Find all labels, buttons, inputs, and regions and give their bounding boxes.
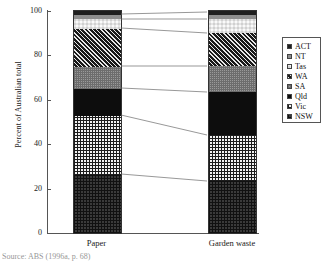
leader-line-vic (121, 174, 207, 181)
legend-label-sa: SA (295, 82, 305, 91)
y-tick-label-60: 60 (2, 96, 42, 104)
legend-item-sa[interactable]: SA (286, 81, 317, 91)
bar-paper[interactable] (73, 10, 122, 234)
bar-paper-segment-vic[interactable] (74, 116, 121, 175)
legend-swatch-nt-icon (287, 54, 292, 59)
legend-swatch-tas-icon (287, 64, 292, 69)
legend-label-wa: WA (295, 72, 307, 81)
y-tick-100 (47, 11, 51, 12)
bar-garden-waste-segment-qld[interactable] (209, 92, 256, 135)
y-tick-0 (47, 233, 51, 234)
legend: ACT NT Tas WA SA Qld Vic NSW (282, 37, 321, 123)
bar-garden-waste-segment-tas[interactable] (209, 19, 256, 33)
y-tick-label-40: 40 (2, 140, 42, 148)
bar-paper-segment-qld[interactable] (74, 89, 121, 116)
legend-item-vic[interactable]: Vic (286, 101, 317, 111)
legend-label-act: ACT (295, 42, 311, 51)
y-tick-label-0: 0 (2, 229, 42, 237)
legend-item-qld[interactable]: Qld (286, 91, 317, 101)
legend-item-act[interactable]: ACT (286, 41, 317, 51)
x-tick-label-garden-waste: Garden waste (197, 238, 267, 248)
bar-garden-waste-segment-wa[interactable] (209, 33, 256, 66)
legend-label-nt: NT (295, 52, 306, 61)
legend-swatch-vic-icon (287, 104, 292, 109)
bar-garden-waste-segment-nsw[interactable] (209, 181, 256, 233)
bar-paper-segment-sa[interactable] (74, 67, 121, 89)
bar-garden-waste[interactable] (208, 10, 257, 234)
bar-paper-segment-tas[interactable] (74, 19, 121, 29)
legend-label-vic: Vic (295, 102, 306, 111)
legend-label-tas: Tas (295, 62, 306, 71)
x-tick-label-paper: Paper (73, 238, 120, 248)
legend-label-nsw: NSW (295, 112, 313, 121)
legend-item-nt[interactable]: NT (286, 51, 317, 61)
bar-paper-segment-nsw[interactable] (74, 175, 121, 233)
y-tick-40 (47, 144, 51, 145)
legend-swatch-wa-icon (287, 74, 292, 79)
chart-root: Percent of Australian total 100 80 60 40… (0, 0, 323, 262)
segment-leader-lines (0, 0, 323, 262)
leader-line-tas (121, 28, 207, 33)
leader-line-sa (121, 88, 207, 92)
y-axis-line (47, 10, 48, 234)
legend-item-tas[interactable]: Tas (286, 61, 317, 71)
bar-paper-segment-wa[interactable] (74, 29, 121, 67)
y-tick-label-100: 100 (2, 7, 42, 15)
legend-swatch-sa-icon (287, 84, 292, 89)
y-tick-20 (47, 189, 51, 190)
legend-swatch-act-icon (287, 44, 292, 49)
legend-swatch-nsw-icon (287, 114, 292, 119)
y-tick-80 (47, 55, 51, 56)
y-tick-60 (47, 100, 51, 101)
y-tick-label-20: 20 (2, 185, 42, 193)
leader-line-qld (121, 115, 207, 135)
bar-garden-waste-segment-vic[interactable] (209, 135, 256, 181)
legend-item-wa[interactable]: WA (286, 71, 317, 81)
bar-garden-waste-segment-sa[interactable] (209, 66, 256, 92)
leader-line-act (121, 12, 207, 14)
legend-item-nsw[interactable]: NSW (286, 111, 317, 121)
y-tick-label-80: 80 (2, 51, 42, 59)
legend-swatch-qld-icon (287, 94, 292, 99)
legend-label-qld: Qld (295, 92, 307, 101)
source-caption: Source: ABS (1996a, p. 68) (2, 252, 90, 261)
